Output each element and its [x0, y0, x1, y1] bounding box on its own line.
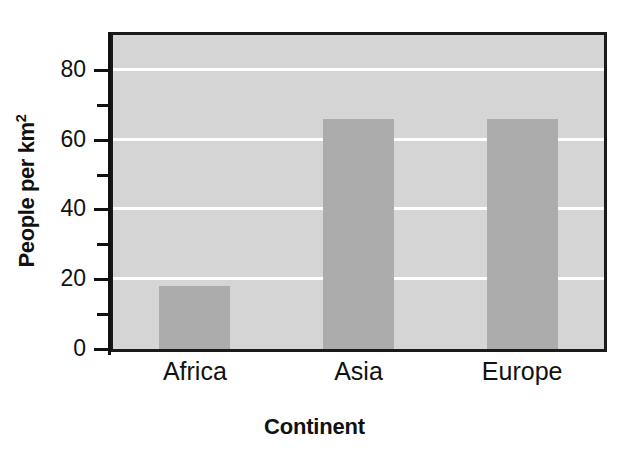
y-axis-title-text: People per km [14, 122, 39, 267]
x-tick-label-europe: Europe [440, 357, 604, 386]
y-major-tick-80 [94, 69, 110, 72]
plot-inner [113, 35, 604, 349]
y-tick-label-0: 0 [34, 337, 86, 360]
bar-chart-figure: 020406080 People per km2 AfricaAsiaEurop… [0, 0, 629, 472]
bar-africa [159, 286, 230, 349]
y-minor-tick-10 [97, 313, 110, 316]
y-tick-label-60: 60 [34, 128, 86, 151]
bar-asia [323, 119, 394, 349]
x-tick-label-africa: Africa [113, 357, 277, 386]
y-major-tick-0 [94, 348, 110, 351]
y-minor-tick-70 [97, 104, 110, 107]
y-axis-line [108, 32, 111, 355]
y-major-tick-20 [94, 278, 110, 281]
x-axis-title: Continent [0, 414, 629, 440]
bar-europe [487, 119, 558, 349]
y-axis-title-superscript: 2 [13, 115, 29, 123]
cropped-title-remnant [268, 0, 568, 5]
y-major-tick-40 [94, 208, 110, 211]
gridline [113, 68, 604, 71]
plot-area [110, 32, 607, 352]
y-minor-tick-30 [97, 243, 110, 246]
y-tick-label-20: 20 [34, 267, 86, 290]
y-tick-label-40: 40 [34, 197, 86, 220]
y-tick-label-80: 80 [34, 58, 86, 81]
y-axis-title: People per km2 [14, 91, 40, 291]
x-tick-label-asia: Asia [277, 357, 441, 386]
y-minor-tick-50 [97, 174, 110, 177]
y-major-tick-60 [94, 139, 110, 142]
